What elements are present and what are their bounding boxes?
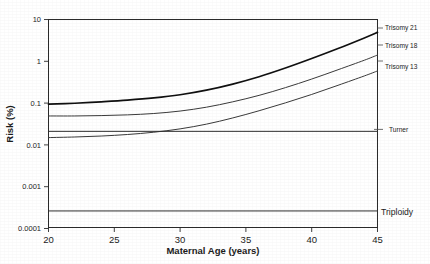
- x-axis-title: Maternal Age (years): [166, 245, 259, 256]
- y-tick-label: 10: [33, 15, 41, 24]
- y-axis-ticks: [44, 20, 49, 229]
- x-tick-label: 20: [43, 234, 54, 245]
- x-tick-label: 25: [109, 234, 120, 245]
- x-tick-label: 35: [241, 234, 252, 245]
- series-line-trisomy-18: [49, 55, 378, 116]
- y-tick-label: 0.001: [22, 182, 41, 191]
- y-tick-label: 0.01: [26, 141, 41, 150]
- series-label-turner: Turner: [389, 126, 409, 133]
- series-label-triploidy: Triploidy: [381, 207, 414, 217]
- y-tick-label: 1: [37, 57, 41, 66]
- y-axis-title: Risk (%): [4, 105, 15, 142]
- y-tick-label: 0.0001: [18, 224, 41, 233]
- data-series-group: [49, 32, 378, 211]
- series-label-trisomy-18: Trisomy 18: [385, 42, 418, 50]
- x-tick-label: 45: [372, 234, 383, 245]
- y-axis-tick-labels: 10 1 0.1 0.01 0.001 0.0001: [18, 15, 41, 233]
- series-line-trisomy-13: [49, 71, 378, 138]
- series-labels-group: Trisomy 21 Trisomy 18 Trisomy 13 Turner …: [374, 24, 418, 217]
- x-axis-tick-labels: 20 25 30 35 40 45: [43, 234, 383, 245]
- chart-svg: 10 1 0.1 0.01 0.001 0.0001 Risk (%) 20 2…: [0, 0, 430, 264]
- series-label-trisomy-13: Trisomy 13: [385, 63, 418, 71]
- risk-vs-maternal-age-chart: 10 1 0.1 0.01 0.001 0.0001 Risk (%) 20 2…: [0, 0, 430, 264]
- x-tick-label: 30: [175, 234, 186, 245]
- x-tick-label: 40: [306, 234, 317, 245]
- x-axis-ticks: [49, 228, 378, 233]
- plot-frame: [49, 20, 378, 228]
- series-line-trisomy-21: [49, 32, 378, 104]
- y-tick-label: 0.1: [31, 99, 41, 108]
- series-label-trisomy-21: Trisomy 21: [385, 24, 418, 32]
